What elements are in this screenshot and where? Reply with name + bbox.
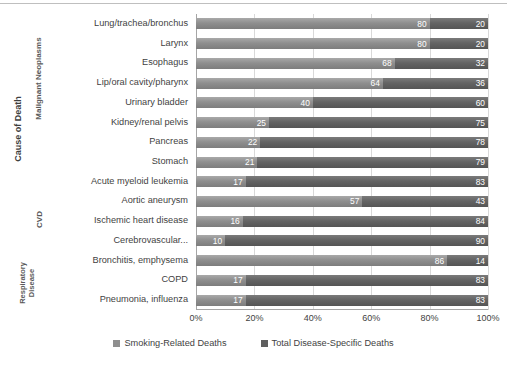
y-axis-tick-label: Cerebrovascular... bbox=[52, 235, 188, 246]
bar-segment[interactable]: 83 bbox=[246, 295, 488, 306]
bar-row[interactable]: 8020 bbox=[196, 18, 488, 29]
bar-row[interactable]: 1783 bbox=[196, 176, 488, 187]
bar-segment[interactable]: 86 bbox=[196, 255, 447, 266]
bar-segment[interactable]: 68 bbox=[196, 58, 395, 69]
bar-row[interactable]: 8614 bbox=[196, 255, 488, 266]
y-axis-title: Cause of Death bbox=[13, 84, 23, 174]
bar-segment[interactable]: 20 bbox=[430, 18, 488, 29]
bar-segment[interactable]: 16 bbox=[196, 216, 243, 227]
x-axis-tick-label: 60% bbox=[362, 313, 380, 323]
bar-value-label: 64 bbox=[371, 78, 383, 88]
bar-segment[interactable]: 17 bbox=[196, 275, 246, 286]
bar-value-label: 14 bbox=[476, 256, 488, 266]
legend-label: Smoking-Related Deaths bbox=[124, 338, 226, 348]
bar-segment[interactable]: 21 bbox=[196, 157, 257, 168]
bar-segment[interactable]: 83 bbox=[246, 275, 488, 286]
bar-segment[interactable]: 84 bbox=[243, 216, 488, 227]
x-axis-tick-labels: 0%20%40%60%80%100% bbox=[196, 313, 488, 327]
y-axis-tick-label: Lung/trachea/bronchus bbox=[52, 18, 188, 29]
bar-segment[interactable]: 17 bbox=[196, 295, 246, 306]
bar-value-label: 25 bbox=[257, 118, 269, 128]
bar-value-label: 84 bbox=[476, 216, 488, 226]
bar-row[interactable]: 8020 bbox=[196, 38, 488, 49]
legend-swatch-icon bbox=[113, 340, 120, 347]
y-axis-tick-label: Acute myeloid leukemia bbox=[52, 176, 188, 187]
group-label-malignant-neoplasms: Malignant Neoplasms bbox=[34, 19, 43, 139]
bar-row[interactable]: 2278 bbox=[196, 137, 488, 148]
y-axis-tick-label: COPD bbox=[52, 274, 188, 285]
bar-value-label: 83 bbox=[476, 295, 488, 305]
bar-row[interactable]: 2179 bbox=[196, 157, 488, 168]
bar-value-label: 36 bbox=[476, 78, 488, 88]
bar-segment[interactable]: 79 bbox=[257, 157, 488, 168]
bar-value-label: 20 bbox=[476, 19, 488, 29]
y-axis-tick-label: Urinary bladder bbox=[52, 97, 188, 108]
bar-row[interactable]: 1783 bbox=[196, 295, 488, 306]
bar-value-label: 40 bbox=[300, 98, 312, 108]
y-axis-tick-label: Lip/oral cavity/pharynx bbox=[52, 77, 188, 88]
bar-value-label: 83 bbox=[476, 275, 488, 285]
bar-segment[interactable]: 80 bbox=[196, 38, 430, 49]
bar-segment[interactable]: 25 bbox=[196, 117, 269, 128]
bar-row[interactable]: 5743 bbox=[196, 196, 488, 207]
bar-segment[interactable]: 20 bbox=[430, 38, 488, 49]
top-divider bbox=[0, 3, 507, 4]
bar-segment[interactable]: 10 bbox=[196, 235, 225, 246]
bar-segment[interactable]: 32 bbox=[395, 58, 488, 69]
bar-row[interactable]: 1090 bbox=[196, 235, 488, 246]
bar-value-label: 90 bbox=[476, 236, 488, 246]
gridline bbox=[488, 14, 489, 310]
bar-segment[interactable]: 36 bbox=[383, 78, 488, 89]
bar-segment[interactable]: 60 bbox=[313, 97, 488, 108]
bar-segment[interactable]: 64 bbox=[196, 78, 383, 89]
bar-row[interactable]: 1684 bbox=[196, 216, 488, 227]
bar-value-label: 10 bbox=[213, 236, 225, 246]
bar-value-label: 22 bbox=[248, 137, 260, 147]
bar-value-label: 16 bbox=[230, 216, 242, 226]
y-axis-tick-label: Larynx bbox=[52, 38, 188, 49]
bar-segment[interactable]: 78 bbox=[260, 137, 488, 148]
bar-row[interactable]: 1783 bbox=[196, 275, 488, 286]
bar-segment[interactable]: 17 bbox=[196, 176, 246, 187]
y-axis-tick-label: Bronchitis, emphysema bbox=[52, 255, 188, 266]
y-axis-tick-label: Pancreas bbox=[52, 136, 188, 147]
x-axis-tick-label: 100% bbox=[476, 313, 499, 323]
bar-value-label: 32 bbox=[476, 58, 488, 68]
y-axis-tick-label: Ischemic heart disease bbox=[52, 215, 188, 226]
chart-legend: Smoking-Related DeathsTotal Disease-Spec… bbox=[0, 338, 507, 348]
bar-segment[interactable]: 14 bbox=[447, 255, 488, 266]
bar-segment[interactable]: 22 bbox=[196, 137, 260, 148]
bar-segment[interactable]: 83 bbox=[246, 176, 488, 187]
bar-value-label: 17 bbox=[233, 177, 245, 187]
y-axis-tick-label: Stomach bbox=[52, 156, 188, 167]
bar-row[interactable]: 4060 bbox=[196, 97, 488, 108]
bar-value-label: 79 bbox=[476, 157, 488, 167]
legend-label: Total Disease-Specific Deaths bbox=[272, 338, 394, 348]
bar-segment[interactable]: 80 bbox=[196, 18, 430, 29]
group-label-cvd: CVD bbox=[35, 193, 44, 247]
bar-segment[interactable]: 90 bbox=[225, 235, 488, 246]
bar-segment[interactable]: 75 bbox=[269, 117, 488, 128]
bar-segment[interactable]: 57 bbox=[196, 196, 362, 207]
bar-segment[interactable]: 40 bbox=[196, 97, 313, 108]
bar-value-label: 43 bbox=[476, 196, 488, 206]
bar-value-label: 78 bbox=[476, 137, 488, 147]
legend-item[interactable]: Smoking-Related Deaths bbox=[113, 338, 226, 348]
group-label-respiratory-disease: Respiratory Disease bbox=[18, 250, 36, 316]
bar-value-label: 75 bbox=[476, 118, 488, 128]
plot-area: 8020802068326436406025752278217917835743… bbox=[196, 14, 488, 310]
bar-value-label: 83 bbox=[476, 177, 488, 187]
legend-item[interactable]: Total Disease-Specific Deaths bbox=[261, 338, 394, 348]
bar-value-label: 17 bbox=[233, 295, 245, 305]
bar-value-label: 80 bbox=[417, 19, 429, 29]
bar-row[interactable]: 2575 bbox=[196, 117, 488, 128]
bar-segment[interactable]: 43 bbox=[362, 196, 488, 207]
x-axis-tick-label: 0% bbox=[189, 313, 202, 323]
y-axis-tick-label: Kidney/renal pelvis bbox=[52, 117, 188, 128]
y-axis-tick-label: Esophagus bbox=[52, 57, 188, 68]
bar-value-label: 80 bbox=[417, 39, 429, 49]
y-axis-tick-label: Pneumonia, influenza bbox=[52, 294, 188, 305]
y-axis-tick-label: Aortic aneurysm bbox=[52, 195, 188, 206]
bar-row[interactable]: 6832 bbox=[196, 58, 488, 69]
bar-row[interactable]: 6436 bbox=[196, 78, 488, 89]
